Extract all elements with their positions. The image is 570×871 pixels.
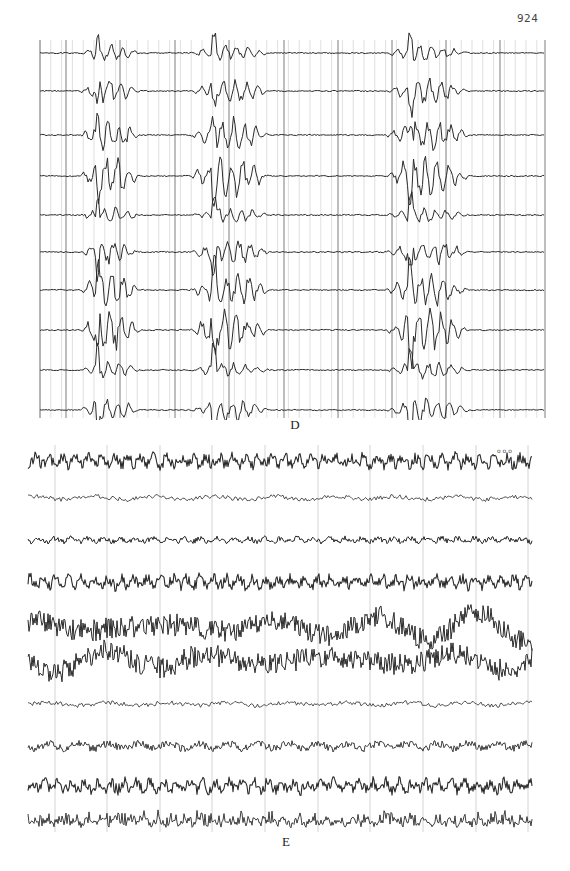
eeg-trace-e [28, 452, 532, 471]
trace-annotation: o o o [497, 447, 512, 454]
eeg-trace-e [28, 573, 532, 592]
eeg-trace-e [28, 701, 532, 708]
eeg-panel-e: o o o [0, 430, 570, 830]
eeg-trace-e [28, 495, 532, 502]
eeg-traces-e: o o o [0, 0, 570, 871]
eeg-trace-e [28, 740, 532, 752]
eeg-trace-e [28, 777, 532, 796]
panel-label-e: E [271, 834, 301, 850]
eeg-trace-e [28, 536, 532, 544]
eeg-trace-e [28, 640, 532, 682]
eeg-trace-e [28, 810, 532, 828]
